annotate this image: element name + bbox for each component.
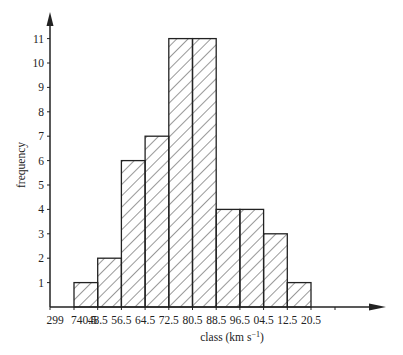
y-tick-label: 5 [38,179,44,191]
x-tick-label: 64.5 [135,314,155,326]
histogram-bar [287,283,311,307]
y-tick-label: 10 [33,57,45,69]
histogram-bar [193,39,217,307]
histogram-bar [216,209,240,307]
x-axis-arrow-icon [369,304,386,311]
histogram-bar [240,209,264,307]
histogram-bar [121,161,145,307]
histogram-bar [145,136,169,307]
y-axis-arrow-icon [47,12,54,26]
x-tick-label: 04.5 [254,314,274,326]
y-tick-label: 3 [38,228,44,240]
x-tick-label: 299 [46,314,64,326]
y-tick-label: 2 [38,252,44,264]
y-tick-label: 11 [33,33,44,45]
histogram-bar [264,234,288,307]
x-tick-label: 48.5 [88,314,108,326]
y-tick-label: 7 [38,130,44,142]
x-tick-label: 80.5 [182,314,202,326]
y-tick-label: 4 [38,203,44,215]
histogram-chart: 1234567891011 299740.548.556.564.572.580… [0,0,403,355]
x-tick-label: 56.5 [111,314,131,326]
x-tick-label: 20.5 [301,314,321,326]
y-axis-label: frequency [15,142,28,188]
x-tick-label: 96.5 [230,314,250,326]
y-tick-label: 1 [38,277,44,289]
y-tick-label: 9 [38,81,44,93]
y-tick-label: 8 [38,106,44,118]
histogram-bars [74,39,311,307]
x-tick-label: 88.5 [206,314,226,326]
y-tick-label: 6 [38,155,44,167]
y-ticks: 1234567891011 [33,33,51,289]
histogram-bar [98,258,122,307]
x-ticks: 299740.548.556.564.572.580.588.596.504.5… [46,307,335,326]
x-tick-label: 12.5 [277,314,297,326]
x-tick-label: 72.5 [159,314,179,326]
histogram-bar [74,283,98,307]
x-axis-label: class (km s−1) [200,330,264,344]
histogram-bar [169,39,193,307]
